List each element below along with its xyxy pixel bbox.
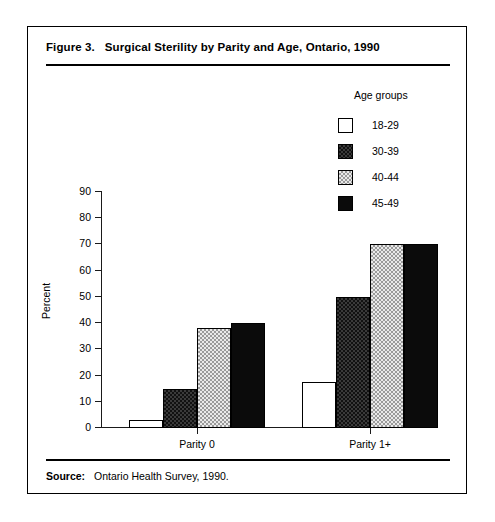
legend-title: Age groups	[354, 89, 458, 101]
y-tick-0	[95, 427, 101, 428]
y-tick-label: 30	[51, 343, 91, 353]
y-tick-label: 90	[51, 186, 91, 196]
x-tick-label: Parity 0	[142, 438, 252, 450]
y-tick-label-wrap: 10	[49, 401, 91, 402]
y-tick-70	[95, 243, 101, 244]
y-tick-90	[95, 191, 101, 192]
y-axis-line	[101, 191, 102, 428]
y-tick-label: 70	[51, 238, 91, 248]
bar-group	[129, 191, 265, 428]
x-tick	[370, 428, 371, 434]
y-tick-label-wrap: 50	[49, 296, 91, 297]
source-label: Source:	[46, 470, 85, 482]
chart-legend: Age groups 18-2930-3940-4445-49	[328, 89, 458, 216]
x-tick	[197, 428, 198, 434]
white-outline-swatch	[338, 118, 353, 133]
y-tick-label: 50	[51, 291, 91, 301]
y-tick-label-wrap: 80	[49, 217, 91, 218]
y-tick-20	[95, 375, 101, 376]
y-tick-label: 60	[51, 265, 91, 275]
bar	[129, 420, 163, 428]
y-tick-30	[95, 348, 101, 349]
legend-item-label: 18-29	[372, 119, 399, 131]
bar	[197, 328, 231, 428]
source-note: Source:Ontario Health Survey, 1990.	[46, 470, 229, 482]
light-hatch-swatch	[338, 170, 353, 185]
x-tick-label: Parity 1+	[315, 438, 425, 450]
y-tick-label: 20	[51, 370, 91, 380]
y-tick-label: 80	[51, 212, 91, 222]
legend-item: 45-49	[328, 190, 458, 216]
y-tick-label-wrap: 30	[49, 348, 91, 349]
bar	[231, 323, 265, 428]
legend-item: 40-44	[328, 164, 458, 190]
legend-item-label: 40-44	[372, 171, 399, 183]
y-tick-label-wrap: 60	[49, 270, 91, 271]
y-tick-10	[95, 401, 101, 402]
legend-items: 18-2930-3940-4445-49	[328, 112, 458, 216]
y-tick-80	[95, 217, 101, 218]
bar	[163, 389, 197, 428]
y-tick-40	[95, 322, 101, 323]
bar	[404, 244, 438, 428]
y-tick-label-wrap: 0	[49, 427, 91, 428]
legend-item: 18-29	[328, 112, 458, 138]
solid-black-swatch	[338, 196, 353, 211]
legend-item: 30-39	[328, 138, 458, 164]
y-tick-label: 40	[51, 317, 91, 327]
source-divider	[46, 459, 450, 461]
y-tick-60	[95, 270, 101, 271]
y-tick-label: 0	[51, 422, 91, 432]
y-tick-label-wrap: 40	[49, 322, 91, 323]
bar	[302, 382, 336, 428]
y-tick-50	[95, 296, 101, 297]
legend-item-label: 30-39	[372, 145, 399, 157]
y-tick-label-wrap: 20	[49, 375, 91, 376]
bar-group	[302, 191, 438, 428]
source-text: Ontario Health Survey, 1990.	[94, 470, 229, 482]
legend-item-label: 45-49	[372, 197, 399, 209]
y-tick-label: 10	[51, 396, 91, 406]
dark-hatch-swatch	[338, 144, 353, 159]
y-tick-label-wrap: 70	[49, 243, 91, 244]
bar	[336, 297, 370, 428]
figure-panel: Figure 3.Surgical Sterility by Parity an…	[27, 26, 467, 494]
bar	[370, 244, 404, 428]
y-tick-label-wrap: 90	[49, 191, 91, 192]
